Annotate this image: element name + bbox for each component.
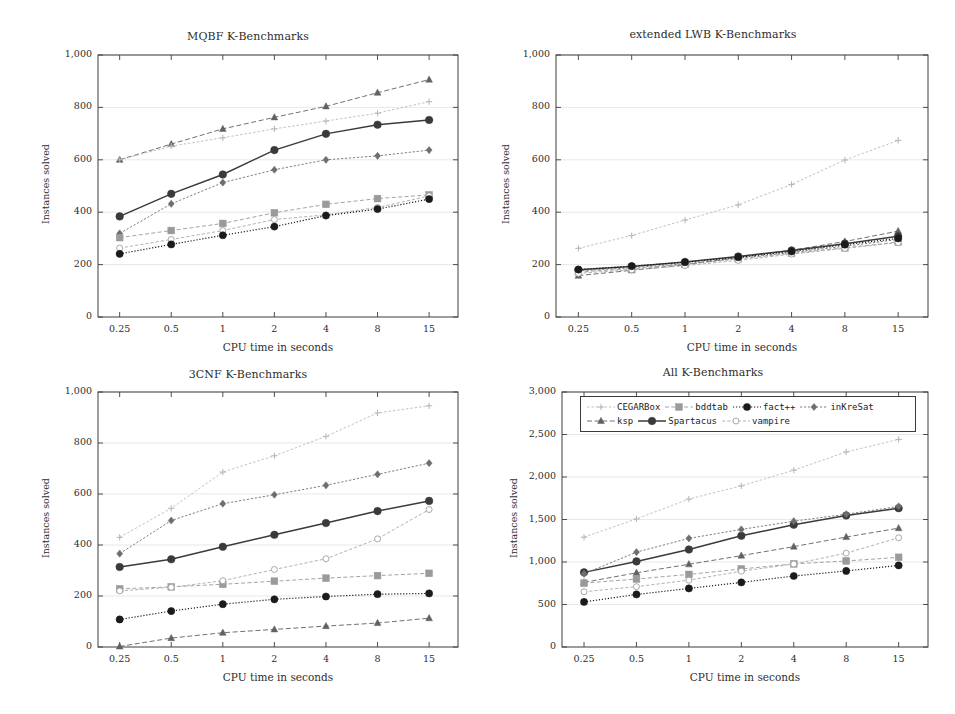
legend-item-inkresat[interactable]: inKreSat: [799, 401, 875, 413]
x-tick-label: 0.5: [612, 323, 652, 334]
x-tick-label: 2: [254, 323, 294, 334]
series-mqbf-fact-: [116, 196, 433, 258]
series-all-cegarbox: [581, 436, 902, 540]
y-tick-label: 0: [510, 640, 556, 651]
y-tick-label: 1,000: [46, 48, 92, 59]
x-axis-label: CPU time in seconds: [98, 671, 458, 683]
series-3cnf-spartacus: [116, 497, 433, 571]
y-tick-label: 1,000: [504, 48, 550, 59]
x-tick-label: 0.5: [151, 323, 191, 334]
y-tick-label: 2,500: [510, 428, 556, 439]
x-tick-label: 15: [409, 653, 449, 664]
chart-panel-mqbf: MQBF K-Benchmarks02004006008001,0000.250…: [18, 30, 478, 380]
y-tick-label: 200: [46, 258, 92, 269]
legend-item-ksp[interactable]: ksp: [586, 415, 635, 427]
series-mqbf-vampire: [117, 193, 432, 251]
x-tick-label: 2: [718, 323, 758, 334]
series-lwb-spartacus: [575, 233, 902, 274]
chart-panel-lwb: extended LWB K-Benchmarks02004006008001,…: [478, 28, 948, 378]
legend-label: vampire: [751, 416, 792, 426]
x-tick-label: 0.25: [100, 323, 140, 334]
series-3cnf-inkresat: [117, 460, 432, 558]
y-tick-label: 400: [46, 538, 92, 549]
chart-panel-all: All K-Benchmarks05001,0001,5002,0002,500…: [478, 366, 948, 714]
y-tick-label: 200: [46, 589, 92, 600]
x-tick-label: 0.5: [616, 653, 656, 664]
chart-legend: CEGARBoxbddtabfact++inKreSatkspSpartacus…: [580, 396, 916, 432]
y-tick-label: 500: [510, 598, 556, 609]
y-tick-label: 0: [46, 310, 92, 321]
legend-item-cegarbox[interactable]: CEGARBox: [586, 401, 662, 413]
x-tick-label: 0.5: [151, 653, 191, 664]
legend-marker-icon: [732, 401, 762, 413]
series-3cnf-cegarbox: [117, 403, 433, 541]
x-tick-label: 4: [306, 323, 346, 334]
legend-item-vampire[interactable]: vampire: [721, 415, 792, 427]
x-tick-label: 15: [878, 323, 918, 334]
legend-marker-icon: [799, 401, 829, 413]
legend-label: CEGARBox: [616, 402, 662, 412]
x-tick-label: 1: [669, 653, 709, 664]
y-tick-label: 800: [504, 100, 550, 111]
legend-marker-icon: [637, 415, 667, 427]
series-lwb-cegarbox: [575, 137, 901, 251]
y-tick-label: 600: [46, 487, 92, 498]
x-tick-label: 8: [358, 653, 398, 664]
y-tick-label: 800: [46, 436, 92, 447]
x-tick-label: 1: [203, 323, 243, 334]
legend-label: Spartacus: [667, 416, 719, 426]
legend-item-bddtab[interactable]: bddtab: [664, 401, 730, 413]
y-axis-label: Instances solved: [40, 144, 51, 224]
x-axis-label: CPU time in seconds: [562, 671, 928, 683]
y-tick-label: 200: [504, 258, 550, 269]
legend-row: CEGARBoxbddtabfact++inKreSat: [586, 400, 910, 414]
x-tick-label: 4: [772, 323, 812, 334]
y-tick-label: 400: [46, 205, 92, 216]
y-axis-label: Instances solved: [500, 144, 511, 224]
legend-marker-icon: [586, 401, 616, 413]
x-axis-label: CPU time in seconds: [98, 341, 458, 353]
x-tick-label: 4: [306, 653, 346, 664]
y-axis-label: Instances solved: [508, 478, 519, 558]
x-tick-label: 1: [665, 323, 705, 334]
y-tick-label: 800: [46, 100, 92, 111]
x-axis-label: CPU time in seconds: [556, 341, 928, 353]
legend-marker-icon: [586, 415, 616, 427]
x-tick-label: 8: [358, 323, 398, 334]
legend-label: fact++: [762, 402, 798, 412]
y-axis-label: Instances solved: [40, 478, 51, 558]
legend-label: bddtab: [694, 402, 730, 412]
x-tick-label: 1: [203, 653, 243, 664]
x-tick-label: 0.25: [564, 653, 604, 664]
series-3cnf-fact-: [116, 590, 433, 623]
x-tick-label: 0.25: [100, 653, 140, 664]
legend-label: ksp: [616, 416, 635, 426]
x-tick-label: 8: [826, 653, 866, 664]
legend-item-fact-[interactable]: fact++: [732, 401, 798, 413]
y-tick-label: 600: [46, 153, 92, 164]
x-tick-label: 8: [825, 323, 865, 334]
chart-panel-3cnf: 3CNF K-Benchmarks02004006008001,0000.250…: [18, 368, 478, 714]
y-tick-label: 1,000: [46, 385, 92, 396]
x-tick-label: 2: [254, 653, 294, 664]
legend-label: inKreSat: [829, 402, 875, 412]
x-tick-label: 2: [721, 653, 761, 664]
figure-root: MQBF K-Benchmarks02004006008001,0000.250…: [0, 0, 955, 714]
y-tick-label: 0: [46, 640, 92, 651]
y-tick-label: 3,000: [510, 385, 556, 396]
legend-marker-icon: [664, 401, 694, 413]
y-tick-label: 0: [504, 310, 550, 321]
x-tick-label: 4: [774, 653, 814, 664]
x-tick-label: 15: [409, 323, 449, 334]
legend-marker-icon: [721, 415, 751, 427]
legend-item-spartacus[interactable]: Spartacus: [637, 415, 719, 427]
legend-row: kspSpartacusvampire: [586, 414, 910, 428]
x-tick-label: 0.25: [558, 323, 598, 334]
x-tick-label: 15: [879, 653, 919, 664]
series-3cnf-bddtab: [116, 570, 432, 592]
